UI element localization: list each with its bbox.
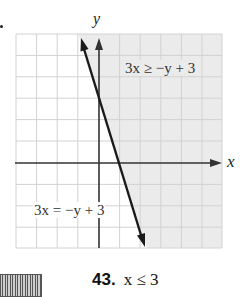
y-axis-label: y bbox=[93, 10, 100, 28]
decorative-striped-box bbox=[0, 274, 42, 297]
x-axis-label: x bbox=[227, 152, 235, 172]
inequality-label-text: 3x ≥ −y + 3 bbox=[124, 60, 196, 76]
boundary-equation-label: 3x = −y + 3 bbox=[33, 202, 105, 219]
problem-number: 43. bbox=[92, 270, 116, 289]
inequality-label: 3x ≥ −y + 3 bbox=[124, 60, 196, 77]
problem-expression: x ≤ 3 bbox=[124, 270, 159, 289]
coordinate-graph bbox=[0, 0, 247, 297]
next-problem: 43.x ≤ 3 bbox=[92, 270, 158, 290]
boundary-equation-text: 3x = −y + 3 bbox=[33, 202, 105, 218]
